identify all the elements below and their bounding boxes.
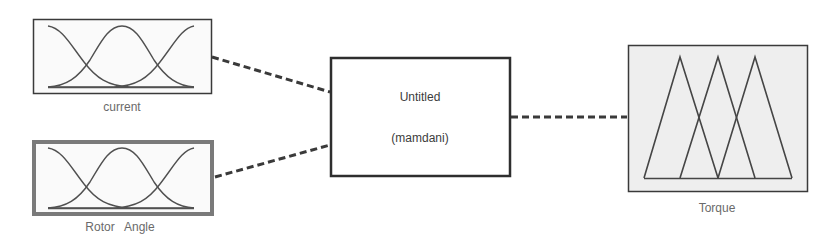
input-rotor-angle-label: Rotor Angle [85,220,154,234]
fis-system-box[interactable] [331,58,510,176]
connector-current-to-system [212,57,330,92]
fis-system-name: Untitled [400,90,441,104]
fis-system-method: (mamdani) [391,131,448,145]
output-torque-box[interactable] [629,46,808,192]
connector-rotor-angle-to-system [215,145,330,177]
input-current-block[interactable] [34,20,212,94]
output-torque-label: Torque [699,201,736,215]
output-torque-block[interactable] [629,46,808,192]
input-rotor-angle-block[interactable] [34,142,212,214]
input-current-label: current [103,100,140,114]
